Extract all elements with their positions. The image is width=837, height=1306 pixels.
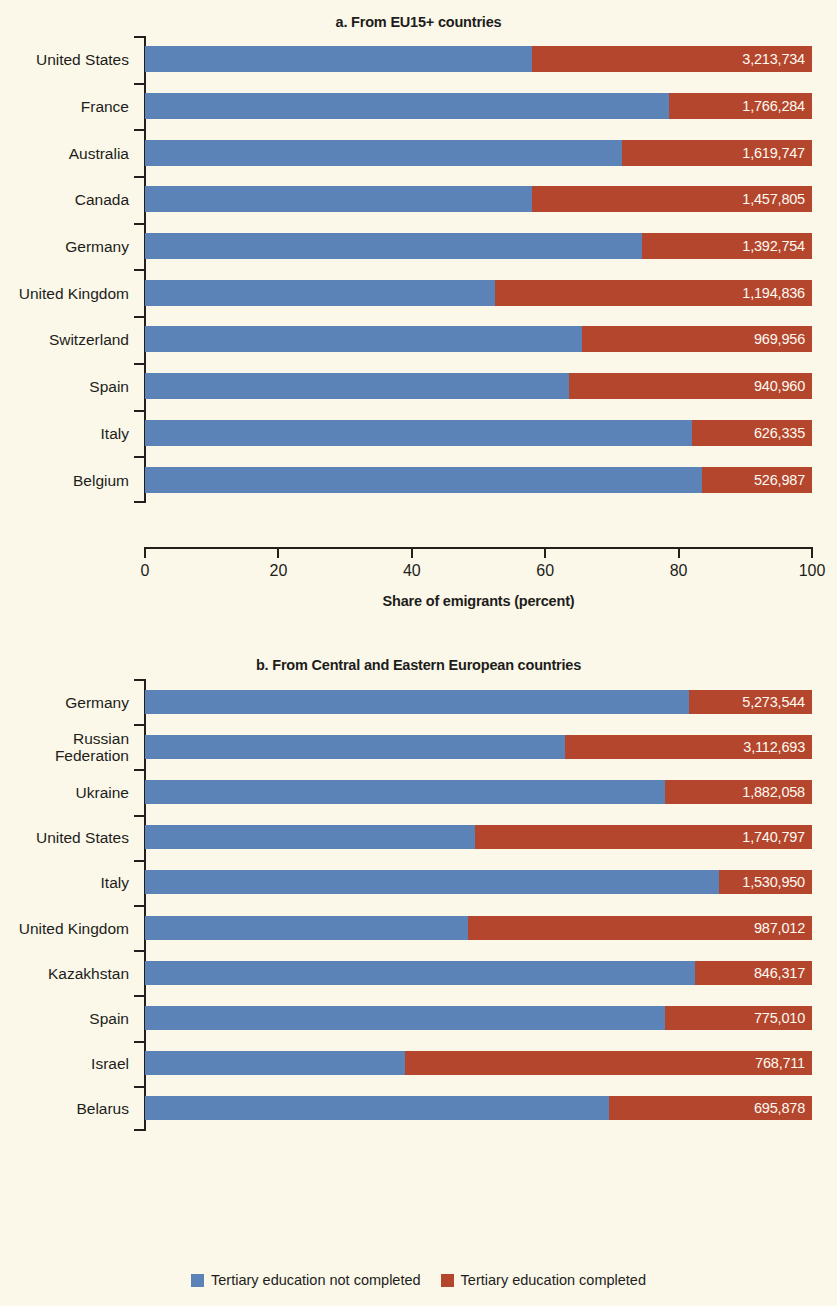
bar-segment-not-completed [145, 1051, 405, 1075]
bar-segment-completed: 1,766,284 [669, 93, 812, 119]
category-label: Canada [0, 191, 129, 208]
category-label: Israel [0, 1055, 129, 1072]
category-label: United States [0, 829, 129, 846]
x-axis-tick-label: 100 [799, 562, 826, 580]
category-label: United Kingdom [0, 284, 129, 301]
bar-segment-completed: 3,213,734 [532, 46, 812, 72]
bar-value-label: 3,112,693 [743, 739, 805, 755]
panel-b-bar-rows: Germany5,273,544Russian Federation3,112,… [145, 679, 812, 1131]
bar-value-label: 940,960 [754, 378, 805, 394]
legend-item: Tertiary education not completed [191, 1272, 421, 1288]
category-tick [134, 223, 145, 225]
bar-segment-not-completed [145, 825, 475, 849]
stacked-bar: 1,457,805 [145, 186, 812, 212]
bar-segment-completed: 695,878 [609, 1096, 812, 1120]
bar-segment-not-completed [145, 780, 665, 804]
x-axis-tick [544, 547, 546, 558]
bar-segment-not-completed [145, 467, 702, 493]
bar-segment-completed: 987,012 [468, 916, 812, 940]
panel-a-value-axis: 020406080100 Share of emigrants (percent… [145, 547, 812, 549]
stacked-bar: 846,317 [145, 961, 812, 985]
bar-row: Italy1,530,950 [145, 860, 812, 905]
bar-row: Belgium526,987 [145, 456, 812, 503]
category-tick [134, 129, 145, 131]
bar-segment-completed: 768,711 [405, 1051, 812, 1075]
bar-segment-completed: 1,392,754 [642, 233, 812, 259]
stacked-bar: 1,619,747 [145, 140, 812, 166]
bar-row: Spain775,010 [145, 995, 812, 1040]
panel-b-plot-area: Germany5,273,544Russian Federation3,112,… [145, 679, 812, 1131]
bar-segment-completed: 1,740,797 [475, 825, 812, 849]
bar-segment-not-completed [145, 373, 569, 399]
stacked-bar: 940,960 [145, 373, 812, 399]
category-label: France [0, 98, 129, 115]
bar-value-label: 1,194,836 [742, 285, 805, 301]
bar-segment-completed: 775,010 [665, 1006, 812, 1030]
bar-row: United States3,213,734 [145, 36, 812, 83]
bar-row: United Kingdom987,012 [145, 905, 812, 950]
bar-segment-completed: 1,194,836 [495, 280, 812, 306]
bar-row: United States1,740,797 [145, 815, 812, 860]
category-tick [134, 269, 145, 271]
panel-b-title: b. From Central and Eastern European cou… [0, 645, 837, 679]
category-tick [134, 1129, 145, 1131]
bar-row: Australia1,619,747 [145, 129, 812, 176]
bar-row: France1,766,284 [145, 83, 812, 130]
category-tick [134, 950, 145, 952]
panel-a-title: a. From EU15+ countries [0, 0, 837, 36]
bar-row: Italy626,335 [145, 410, 812, 457]
category-label: Italy [0, 874, 129, 891]
category-tick [134, 860, 145, 862]
stacked-bar: 695,878 [145, 1096, 812, 1120]
bar-value-label: 775,010 [754, 1010, 805, 1026]
bar-value-label: 1,457,805 [742, 191, 805, 207]
bar-value-label: 5,273,544 [742, 694, 805, 710]
category-tick [134, 83, 145, 85]
category-tick [134, 36, 145, 38]
bar-row: Germany1,392,754 [145, 223, 812, 270]
bar-value-label: 1,392,754 [742, 238, 805, 254]
bar-segment-completed: 626,335 [692, 420, 812, 446]
stacked-bar: 1,392,754 [145, 233, 812, 259]
figure-stacked-bar-emigrant-education: a. From EU15+ countries United States3,2… [0, 0, 837, 1306]
category-label: Germany [0, 693, 129, 710]
category-label: Switzerland [0, 331, 129, 348]
x-axis-tick-label: 20 [269, 562, 287, 580]
category-label: Russian Federation [0, 730, 129, 764]
legend-label: Tertiary education not completed [211, 1272, 421, 1288]
stacked-bar: 5,273,544 [145, 690, 812, 714]
bar-segment-not-completed [145, 140, 622, 166]
bar-row: Germany5,273,544 [145, 679, 812, 724]
category-tick [134, 176, 145, 178]
bar-value-label: 969,956 [754, 331, 805, 347]
bar-row: Switzerland969,956 [145, 316, 812, 363]
bar-row: United Kingdom1,194,836 [145, 269, 812, 316]
panel-b: b. From Central and Eastern European cou… [0, 645, 837, 1260]
bar-segment-not-completed [145, 1006, 665, 1030]
bar-value-label: 846,317 [754, 965, 805, 981]
bar-value-label: 987,012 [754, 920, 805, 936]
bar-segment-completed: 846,317 [695, 961, 812, 985]
bar-segment-not-completed [145, 46, 532, 72]
bar-segment-not-completed [145, 1096, 609, 1120]
category-tick [134, 905, 145, 907]
category-label: Spain [0, 1009, 129, 1026]
stacked-bar: 3,213,734 [145, 46, 812, 72]
category-label: Germany [0, 238, 129, 255]
bar-segment-completed: 1,457,805 [532, 186, 812, 212]
bar-segment-completed: 969,956 [582, 326, 812, 352]
stacked-bar: 626,335 [145, 420, 812, 446]
category-label: Ukraine [0, 783, 129, 800]
bar-value-label: 526,987 [754, 472, 805, 488]
bar-segment-completed: 5,273,544 [689, 690, 812, 714]
bar-segment-completed: 940,960 [569, 373, 812, 399]
x-axis-tick [678, 547, 680, 558]
bar-segment-not-completed [145, 93, 669, 119]
panel-a-bar-rows: United States3,213,734France1,766,284Aus… [145, 36, 812, 503]
category-tick [134, 815, 145, 817]
legend: Tertiary education not completedTertiary… [0, 1272, 837, 1288]
stacked-bar: 1,530,950 [145, 870, 812, 894]
bar-segment-not-completed [145, 326, 582, 352]
bar-segment-not-completed [145, 961, 695, 985]
bar-segment-not-completed [145, 420, 692, 446]
